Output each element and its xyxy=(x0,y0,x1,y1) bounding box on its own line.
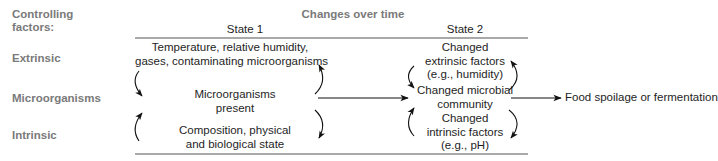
outcome-label: Food spoilage or fermentation xyxy=(565,91,718,105)
state1-heading: State 1 xyxy=(195,23,295,37)
state2-heading: State 2 xyxy=(415,23,515,37)
controlling-factors-heading: Controlling factors: xyxy=(12,8,73,34)
state2-extrinsic-line3: (e.g., humidity) xyxy=(415,68,515,82)
state2-intrinsic-line1: Changed xyxy=(415,112,515,126)
state1-intrinsic-line1: Composition, physical xyxy=(170,124,300,138)
state1-extrinsic-to-micro-arrow xyxy=(135,71,142,96)
row-label-intrinsic: Intrinsic xyxy=(12,129,57,142)
state1-micro-to-intrinsic-arrow xyxy=(315,110,323,138)
state1-intrinsic-line2: and biological state xyxy=(170,138,300,152)
state1-extrinsic-text: Temperature, relative humidity, gases, c… xyxy=(135,41,325,68)
row-label-microorganisms: Microorganisms xyxy=(12,92,101,105)
state1-micro-line2: present xyxy=(185,102,285,116)
state2-micro-line2: community xyxy=(410,98,520,112)
state2-microbial-community-text: Changed microbial community xyxy=(410,84,520,111)
state2-intrinsic-line2: intrinsic factors xyxy=(415,126,515,140)
row-label-extrinsic: Extrinsic xyxy=(12,52,61,65)
state2-extrinsic-line2: extrinsic factors xyxy=(415,55,515,69)
state1-micro-line1: Microorganisms xyxy=(185,88,285,102)
state1-microorganisms-text: Microorganisms present xyxy=(185,88,285,115)
changes-over-time-heading: Changes over time xyxy=(288,8,418,21)
state2-intrinsic-line3: (e.g., pH) xyxy=(415,139,515,153)
state2-extrinsic-line1: Changed xyxy=(415,41,515,55)
state1-micro-to-extrinsic-arrow xyxy=(315,65,323,94)
state2-intrinsic-text: Changed intrinsic factors (e.g., pH) xyxy=(415,112,515,153)
state2-extrinsic-text: Changed extrinsic factors (e.g., humidit… xyxy=(415,41,515,82)
state1-intrinsic-text: Composition, physical and biological sta… xyxy=(170,124,300,151)
state2-micro-line1: Changed microbial xyxy=(410,84,520,98)
state1-extrinsic-line2: gases, contaminating microorganisms xyxy=(135,55,325,69)
state1-extrinsic-line1: Temperature, relative humidity, xyxy=(135,41,325,55)
controlling-factors-line2: factors: xyxy=(12,21,73,34)
state2-intrinsic-to-micro-arrow xyxy=(409,108,415,136)
controlling-factors-line1: Controlling xyxy=(12,8,73,21)
state1-intrinsic-to-micro-arrow xyxy=(135,113,142,141)
